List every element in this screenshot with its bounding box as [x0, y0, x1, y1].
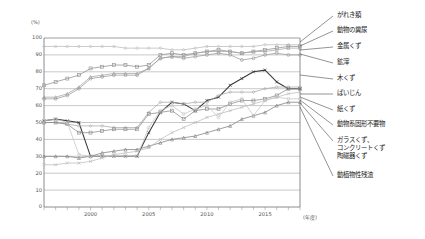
legend-label-7: 動物系固形不要物: [337, 121, 385, 129]
legend-label-4: 木くず: [337, 75, 355, 83]
legend-leader-line: [300, 75, 333, 79]
legend-label-1: 動物の糞尿: [337, 27, 367, 35]
legend-leader-line: [300, 31, 333, 46]
legend-label-0: がれき類: [337, 12, 361, 20]
legend-label-3: 鉱滓: [337, 59, 349, 67]
legend-leader-line: [300, 16, 333, 42]
legend-callouts: がれき類動物の糞尿金属くず鉱滓木くずばいじん紙くず動物系固形不要物ガラスくず、コ…: [0, 0, 425, 239]
legend-leader-line: [300, 47, 333, 50]
legend-label-10: 陶磁器くず: [337, 153, 367, 161]
legend-label-6: 紙くず: [337, 106, 355, 114]
chart-root: (%) (年度) 1009080706050403020100 20002005…: [0, 0, 425, 239]
legend-leader-line: [300, 54, 333, 63]
legend-leader-line: [300, 103, 333, 141]
legend-leader-line: [300, 107, 333, 176]
legend-label-11: 動植物性残渣: [337, 172, 373, 180]
legend-label-2: 金属くず: [337, 43, 361, 51]
legend-label-5: ばいじん: [337, 90, 361, 98]
